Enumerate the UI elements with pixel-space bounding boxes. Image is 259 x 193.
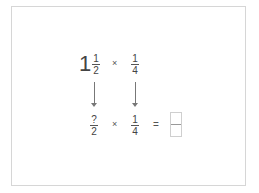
down-arrow-icon bbox=[135, 82, 136, 104]
down-arrow-icon bbox=[94, 82, 95, 104]
numerator: 1 bbox=[130, 114, 140, 125]
denominator: 2 bbox=[91, 65, 101, 76]
mixed-whole: 1 bbox=[79, 53, 91, 75]
equals-sign: = bbox=[153, 119, 159, 130]
answer-numerator-input[interactable] bbox=[171, 113, 181, 124]
numerator: 1 bbox=[91, 53, 101, 64]
denominator: 4 bbox=[130, 126, 140, 137]
multiply-sign: × bbox=[112, 58, 117, 68]
mixed-fraction: 1 2 bbox=[91, 53, 101, 76]
answer-denominator-input[interactable] bbox=[171, 125, 181, 136]
numerator: 1 bbox=[130, 53, 140, 64]
bottom-second-fraction: 1 4 bbox=[130, 114, 140, 137]
unknown-numerator: ? bbox=[89, 114, 99, 125]
denominator: 4 bbox=[130, 65, 140, 76]
top-second-fraction: 1 4 bbox=[130, 53, 140, 76]
denominator: 2 bbox=[89, 126, 99, 137]
answer-fraction-input[interactable] bbox=[170, 112, 182, 137]
improper-fraction: ? 2 bbox=[89, 114, 99, 137]
multiply-sign: × bbox=[112, 119, 117, 129]
problem-card bbox=[11, 6, 246, 186]
